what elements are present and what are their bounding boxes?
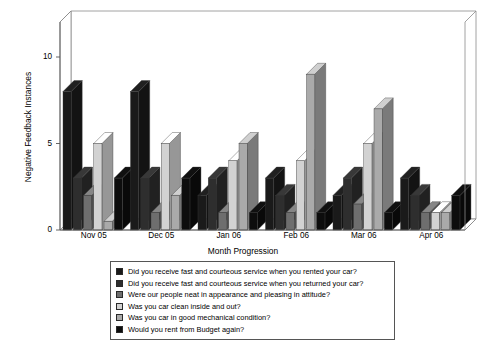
legend-item: Would you rent from Budget again? bbox=[116, 324, 389, 335]
legend-item: Did you receive fast and courteous servi… bbox=[116, 278, 389, 289]
y-tick-label: 5 bbox=[30, 139, 52, 148]
legend-swatch-icon bbox=[116, 280, 123, 287]
legend-label: Did you receive fast and courteous servi… bbox=[128, 267, 357, 276]
legend-swatch-icon bbox=[116, 303, 123, 310]
legend-item: Did you receive fast and courteous servi… bbox=[116, 266, 389, 277]
x-tick-label: Dec 05 bbox=[131, 231, 191, 240]
legend-label: Was you car in good mechanical condition… bbox=[128, 313, 270, 322]
legend-item: Were our people neat in appearance and p… bbox=[116, 289, 389, 300]
chart-container: Negative Feedback Instances Month Progre… bbox=[0, 0, 486, 353]
legend-swatch-icon bbox=[116, 314, 123, 321]
bar bbox=[307, 63, 326, 230]
y-axis-title: Negative Feedback Instances bbox=[23, 52, 33, 202]
legend-label: Was you car clean inside and out? bbox=[128, 302, 241, 311]
x-tick-label: Mar 06 bbox=[334, 231, 394, 240]
x-axis-title: Month Progression bbox=[0, 246, 486, 256]
legend-swatch-icon bbox=[116, 268, 123, 275]
x-tick-label: Jan 06 bbox=[199, 231, 259, 240]
x-tick-label: Nov 05 bbox=[64, 231, 124, 240]
legend-item: Was you car in good mechanical condition… bbox=[116, 312, 389, 323]
x-tick-label: Apr 06 bbox=[401, 231, 461, 240]
y-tick-label: 0 bbox=[30, 225, 52, 234]
y-tick-label: 10 bbox=[30, 52, 52, 61]
legend-label: Were our people neat in appearance and p… bbox=[128, 290, 330, 299]
legend: Did you receive fast and courteous servi… bbox=[110, 261, 395, 340]
legend-label: Did you receive fast and courteous servi… bbox=[128, 279, 363, 288]
legend-label: Would you rent from Budget again? bbox=[128, 325, 244, 334]
legend-swatch-icon bbox=[116, 291, 123, 298]
legend-item: Was you car clean inside and out? bbox=[116, 301, 389, 312]
legend-swatch-icon bbox=[116, 326, 123, 333]
x-tick-label: Feb 06 bbox=[266, 231, 326, 240]
